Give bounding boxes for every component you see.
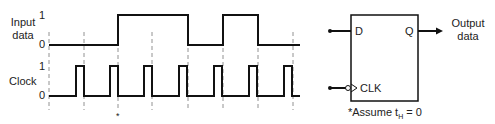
input-level-low: 0	[39, 38, 45, 51]
clock-waveform	[49, 66, 300, 96]
footnote: *Assume tH = 0	[348, 106, 422, 123]
output-data-label: Output data	[446, 17, 490, 43]
clock-level-low: 0	[39, 89, 45, 102]
clk-pin-label: CLK	[360, 82, 381, 95]
q-pin-label: Q	[405, 25, 414, 38]
input-level-high: 1	[39, 9, 45, 22]
asterisk-marker: *	[116, 110, 120, 123]
d-pin-label: D	[355, 25, 363, 38]
arrow-right-icon	[436, 28, 443, 35]
clk-inversion-bubble-icon	[346, 86, 351, 91]
clock-label: Clock	[9, 75, 37, 88]
input-data-label: Input data	[6, 16, 40, 42]
input-data-waveform	[49, 15, 300, 45]
clock-level-high: 1	[39, 60, 45, 73]
